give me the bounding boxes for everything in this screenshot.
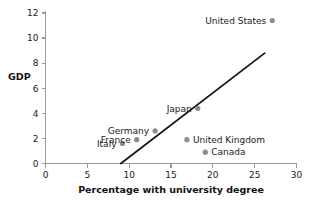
data-point-marker[interactable] — [184, 137, 189, 142]
y-axis-title: GDP — [8, 71, 31, 82]
data-points-group: ItalyFranceGermanyUnited KingdomJapanCan… — [97, 16, 275, 158]
y-tick-label: 12 — [27, 8, 38, 18]
x-axis-ticks: 051015202530 — [43, 164, 303, 180]
y-tick-label: 8 — [33, 58, 39, 68]
data-point-label: United Kingdom — [193, 135, 265, 145]
x-tick-label: 25 — [249, 170, 260, 180]
data-point-marker[interactable] — [134, 137, 139, 142]
data-point-label: United States — [205, 16, 266, 26]
data-point-label: Germany — [108, 126, 150, 136]
scatter-chart: 024681012 051015202530 ItalyFranceGerman… — [0, 0, 312, 202]
y-tick-label: 0 — [33, 159, 39, 169]
y-axis-ticks: 024681012 — [27, 8, 45, 169]
y-tick-label: 2 — [33, 134, 39, 144]
data-point-marker[interactable] — [195, 106, 200, 111]
data-point-label: Japan — [166, 104, 192, 114]
x-axis-title: Percentage with university degree — [78, 184, 264, 195]
data-point-label: Canada — [211, 147, 245, 157]
x-tick-label: 15 — [165, 170, 176, 180]
data-point-marker[interactable] — [270, 18, 275, 23]
x-tick-label: 20 — [207, 170, 219, 180]
data-point-label: France — [101, 135, 131, 145]
y-tick-label: 4 — [33, 109, 39, 119]
data-point-marker[interactable] — [153, 128, 158, 133]
y-tick-label: 10 — [27, 33, 39, 43]
chart-canvas: 024681012 051015202530 ItalyFranceGerman… — [0, 0, 312, 202]
x-tick-label: 10 — [123, 170, 135, 180]
x-tick-label: 5 — [84, 170, 90, 180]
y-tick-label: 6 — [33, 84, 39, 94]
x-tick-label: 0 — [43, 170, 49, 180]
x-tick-label: 30 — [291, 170, 303, 180]
data-point-marker[interactable] — [203, 150, 208, 155]
